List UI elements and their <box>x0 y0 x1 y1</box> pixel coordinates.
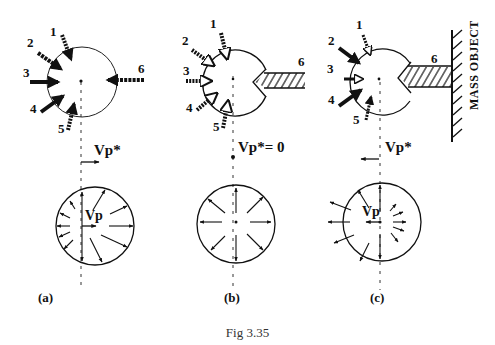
center-dot <box>378 220 381 223</box>
force-arrow-1 <box>363 35 370 54</box>
force-label-1: 1 <box>210 16 217 31</box>
force-arrow-2 <box>38 53 61 69</box>
force-arrow-1 <box>221 33 227 58</box>
force-label-1: 1 <box>50 24 57 39</box>
rigid-rod-6 <box>400 66 451 87</box>
force-label-2: 2 <box>27 35 34 50</box>
mass-object-label: MASS OBJECT <box>467 20 481 110</box>
particle-circle <box>203 50 266 116</box>
particle-velocity-label: Vp <box>362 204 380 219</box>
force-label-5: 5 <box>58 121 65 136</box>
force-label-6: 6 <box>138 61 145 76</box>
panel-a: 1 2 3 4 5 6 Vp* Vp (a) <box>23 24 145 305</box>
figure-caption: Fig 3.35 <box>0 325 495 341</box>
force-label-2: 2 <box>182 33 189 48</box>
force-arrow-5 <box>366 97 371 120</box>
particle-velocity-label: Vp <box>85 208 103 223</box>
mass-object-wall: MASS OBJECT <box>452 20 481 142</box>
force-arrows <box>30 35 144 130</box>
velocity-label: Vp* <box>94 142 121 158</box>
panel-label-b: (b) <box>224 290 240 305</box>
rigid-rod-6 <box>255 73 305 88</box>
center-dot <box>378 78 381 81</box>
force-label-3: 3 <box>327 61 334 76</box>
figure-3-35: 1 2 3 4 5 6 Vp* Vp (a) <box>0 0 495 345</box>
panel-b: 1 2 3 4 5 6 Vp*= 0 (b) <box>182 16 305 305</box>
force-label-1: 1 <box>356 17 363 32</box>
center-dot <box>232 78 235 81</box>
force-label-3: 3 <box>183 63 190 78</box>
zero-velocity-point <box>231 155 235 159</box>
radial-velocity-arrows <box>328 185 406 261</box>
force-label-6: 6 <box>298 54 305 69</box>
force-label-2: 2 <box>328 33 335 48</box>
velocity-label: Vp* <box>385 139 412 155</box>
panel-c: MASS OBJECT 1 2 3 4 5 6 Vp* <box>327 17 481 305</box>
force-arrow-5 <box>223 102 228 128</box>
force-arrows <box>339 35 371 120</box>
force-arrow-1 <box>62 35 71 59</box>
center-dot <box>235 221 238 224</box>
center-dot <box>79 79 82 82</box>
force-label-6: 6 <box>431 51 438 66</box>
force-label-4: 4 <box>186 100 193 115</box>
force-arrow-2 <box>339 48 359 63</box>
force-label-4: 4 <box>30 101 37 116</box>
panel-label-a: (a) <box>38 290 53 305</box>
force-label-5: 5 <box>213 119 220 134</box>
radial-velocity-arrows <box>200 188 271 261</box>
force-label-4: 4 <box>328 92 335 107</box>
force-arrow-5 <box>68 104 74 130</box>
force-label-3: 3 <box>23 65 30 80</box>
panel-label-c: (c) <box>370 290 384 305</box>
velocity-label: Vp*= 0 <box>238 139 284 155</box>
velocity-field-circle <box>343 183 421 261</box>
force-label-5: 5 <box>353 112 360 127</box>
